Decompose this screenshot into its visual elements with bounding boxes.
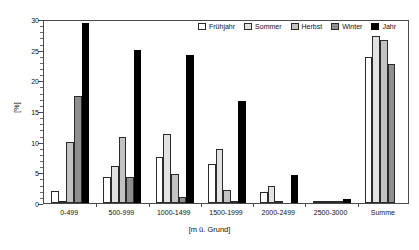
y-axis-tick-label: 15 [13, 109, 39, 116]
bar-sommer-500-999 [111, 166, 119, 203]
chart-root: [%] 051015202530 0-499500-9991000-149915… [0, 0, 419, 250]
y-axis-tick-minor [40, 38, 43, 39]
x-axis-group-label-2000-2499: 2000-2499 [262, 209, 295, 216]
bar-jahr-500-999 [134, 50, 142, 203]
bar-winter-500-999 [126, 177, 134, 203]
bar-winter-2500-3000 [335, 201, 343, 203]
x-axis-group-label-1000-1499: 1000-1499 [157, 209, 190, 216]
y-axis-tick-minor [40, 167, 43, 168]
legend-swatch-icon [244, 23, 252, 30]
bar-herbst-500-999 [119, 137, 127, 203]
y-axis-tick-label: 25 [13, 47, 39, 54]
legend-item-winter[interactable]: Winter [331, 23, 362, 30]
y-axis-tick-minor [40, 100, 43, 101]
bar-frühjahr-Summe [365, 57, 373, 203]
y-axis-tick-minor [40, 94, 43, 95]
legend-label: Winter [342, 23, 362, 30]
legend-swatch-icon [331, 23, 339, 30]
bar-sommer-0-499 [59, 201, 67, 203]
x-axis-tick [96, 203, 97, 207]
y-axis-tick-minor [40, 69, 43, 70]
y-axis-tick-minor [40, 179, 43, 180]
bar-frühjahr-500-999 [103, 177, 111, 203]
x-axis-tick [149, 203, 150, 207]
x-axis-group-label-Summe: Summe [371, 209, 395, 216]
bars-layer [44, 21, 408, 203]
x-axis-group-label-1500-1999: 1500-1999 [209, 209, 242, 216]
y-axis-tick-minor [40, 87, 43, 88]
bar-frühjahr-1500-1999 [208, 164, 216, 203]
bar-jahr-1500-1999 [238, 101, 246, 203]
y-axis-tick-label: 30 [13, 17, 39, 24]
y-axis-tick-minor [40, 118, 43, 119]
x-axis-group-label-0-499: 0-499 [60, 209, 78, 216]
bar-jahr-2000-2499 [291, 175, 299, 203]
x-axis-group-label-500-999: 500-999 [109, 209, 135, 216]
bar-herbst-2500-3000 [328, 201, 336, 203]
legend-swatch-icon [198, 23, 206, 30]
bar-herbst-0-499 [66, 142, 74, 203]
bar-sommer-2500-3000 [320, 201, 328, 203]
bar-winter-0-499 [74, 96, 82, 203]
x-axis-group-label-2500-3000: 2500-3000 [314, 209, 347, 216]
bar-sommer-1000-1499 [163, 134, 171, 203]
y-axis-tick-label: 0 [13, 201, 39, 208]
bar-jahr-2500-3000 [343, 199, 351, 203]
y-axis-tick-minor [40, 45, 43, 46]
y-axis-tick-label: 20 [13, 78, 39, 85]
x-axis-tick [253, 203, 254, 207]
bar-sommer-1500-1999 [216, 149, 224, 203]
plot-area [43, 20, 409, 204]
y-axis-title: [%] [13, 91, 20, 125]
bar-jahr-0-499 [82, 23, 90, 203]
y-axis-tick-label: 5 [13, 170, 39, 177]
y-axis-tick-minor [40, 26, 43, 27]
legend-label: Herbst [302, 23, 323, 30]
y-axis-tick-minor [40, 106, 43, 107]
bar-frühjahr-2000-2499 [260, 192, 268, 203]
y-axis-tick-minor [40, 137, 43, 138]
bar-winter-1000-1499 [179, 197, 187, 203]
bar-sommer-Summe [372, 36, 380, 203]
y-axis-tick-minor [40, 186, 43, 187]
chart-legend: FrühjahrSommerHerbstWinterJahr [196, 22, 398, 31]
legend-label: Frühjahr [209, 23, 235, 30]
bar-herbst-Summe [380, 40, 388, 203]
y-axis-tick-minor [40, 192, 43, 193]
legend-label: Jahr [382, 23, 396, 30]
x-axis-title: [m ü. Grund] [0, 225, 419, 234]
bar-herbst-1500-1999 [223, 190, 231, 203]
x-axis-tick [201, 203, 202, 207]
bar-frühjahr-2500-3000 [313, 201, 321, 203]
bar-sommer-2000-2499 [268, 186, 276, 203]
legend-item-frühjahr[interactable]: Frühjahr [198, 23, 235, 30]
legend-swatch-icon [291, 23, 299, 30]
bar-winter-Summe [388, 64, 396, 203]
y-axis-tick-minor [40, 161, 43, 162]
bar-herbst-2000-2499 [275, 201, 283, 203]
y-axis-tick-minor [40, 124, 43, 125]
legend-item-jahr[interactable]: Jahr [371, 23, 396, 30]
y-axis-tick-minor [40, 63, 43, 64]
legend-label: Sommer [255, 23, 281, 30]
bar-frühjahr-0-499 [51, 191, 59, 203]
y-axis-tick-minor [40, 198, 43, 199]
bar-herbst-1000-1499 [171, 174, 179, 203]
legend-swatch-icon [371, 23, 379, 30]
y-axis-tick-label: 10 [13, 139, 39, 146]
bar-winter-1500-1999 [231, 201, 239, 203]
y-axis-tick-minor [40, 32, 43, 33]
y-axis-tick-minor [40, 130, 43, 131]
x-axis-tick [305, 203, 306, 207]
y-axis-tick-minor [40, 75, 43, 76]
y-axis-tick-minor [40, 149, 43, 150]
y-axis-tick-minor [40, 155, 43, 156]
legend-item-herbst[interactable]: Herbst [291, 23, 323, 30]
legend-item-sommer[interactable]: Sommer [244, 23, 281, 30]
y-axis-tick-minor [40, 57, 43, 58]
x-axis-tick [358, 203, 359, 207]
bar-jahr-1000-1499 [186, 55, 194, 203]
bar-frühjahr-1000-1499 [156, 157, 164, 203]
